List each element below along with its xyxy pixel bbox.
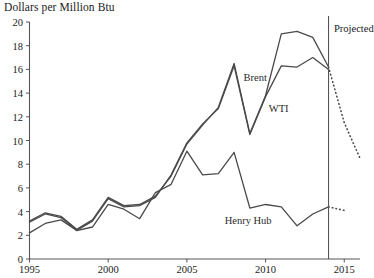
y-axis-tick-label: 2 xyxy=(1,230,23,241)
x-axis-tick-label: 2015 xyxy=(322,264,366,275)
x-axis-tick-label: 2005 xyxy=(165,264,209,275)
chart-axes xyxy=(26,22,360,263)
y-axis-tick-label: 20 xyxy=(1,17,23,28)
x-axis-tick-label: 2010 xyxy=(244,264,288,275)
series-line-brent xyxy=(30,31,329,229)
series-line-henry-hub xyxy=(30,151,329,233)
y-axis-tick-label: 8 xyxy=(1,159,23,170)
y-axis-tick-label: 0 xyxy=(1,254,23,265)
y-axis-tick-label: 12 xyxy=(1,111,23,122)
series-line-henry-hub-projection xyxy=(329,207,345,211)
y-axis-tick-label: 14 xyxy=(1,88,23,99)
projected-region-label: Projected xyxy=(334,23,374,34)
x-axis-tick-label: 2000 xyxy=(86,264,130,275)
x-axis-tick-label: 1995 xyxy=(8,264,52,275)
y-axis-tick-label: 16 xyxy=(1,64,23,75)
y-axis-tick-label: 4 xyxy=(1,206,23,217)
y-axis-tick-label: 18 xyxy=(1,40,23,51)
series-line-wti xyxy=(30,58,329,231)
y-axis-tick-label: 10 xyxy=(1,135,23,146)
series-label-brent: Brent xyxy=(244,72,267,83)
y-axis-tick-label: 6 xyxy=(1,182,23,193)
series-label-wti: WTI xyxy=(269,103,289,114)
chart-series-group xyxy=(30,31,361,232)
series-line-brent-projection xyxy=(329,67,360,158)
series-label-henry-hub: Henry Hub xyxy=(225,215,272,226)
